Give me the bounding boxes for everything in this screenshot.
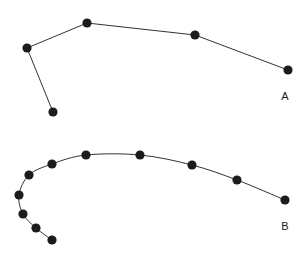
data-point[interactable] [47, 159, 56, 168]
data-point[interactable] [190, 30, 199, 39]
data-point[interactable] [81, 150, 90, 159]
point-series-plot: A B [0, 0, 305, 261]
figure-canvas: A B [0, 0, 305, 261]
series-a-label: A [281, 90, 289, 102]
series-group-a: A [22, 18, 292, 116]
data-point[interactable] [18, 209, 27, 218]
data-point[interactable] [187, 160, 196, 169]
series-a-line [27, 23, 288, 112]
series-b-markers [14, 150, 289, 244]
series-b-line [19, 154, 285, 240]
data-point[interactable] [283, 65, 292, 74]
data-point[interactable] [47, 235, 56, 244]
data-point[interactable] [48, 107, 57, 116]
series-group-b: B [14, 150, 289, 244]
data-point[interactable] [82, 18, 91, 27]
data-point[interactable] [135, 150, 144, 159]
data-point[interactable] [24, 170, 33, 179]
data-point[interactable] [232, 175, 241, 184]
data-point[interactable] [280, 195, 289, 204]
data-point[interactable] [22, 43, 31, 52]
series-b-label: B [281, 220, 289, 232]
data-point[interactable] [14, 190, 23, 199]
data-point[interactable] [31, 223, 40, 232]
